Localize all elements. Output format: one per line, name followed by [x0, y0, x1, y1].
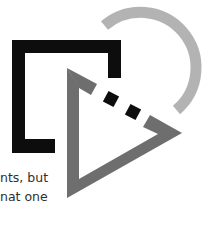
bracket-shape — [12, 40, 121, 153]
gap-dot-2 — [125, 104, 141, 120]
cropped-text-block: nts, but nat one — [0, 168, 70, 206]
text-line-1: nts, but — [0, 168, 70, 187]
text-line-2: nat one — [0, 187, 70, 206]
gap-dot-1 — [103, 91, 119, 107]
